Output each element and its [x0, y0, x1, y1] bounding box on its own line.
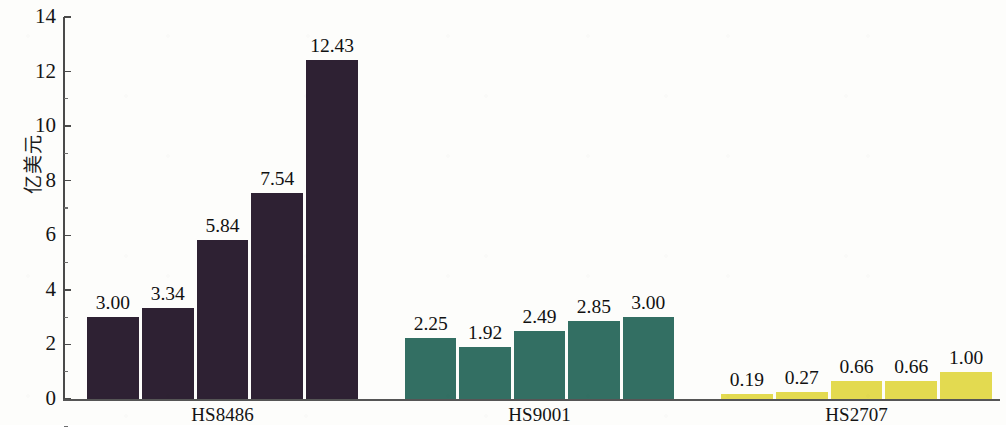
- bar: [197, 240, 249, 399]
- bar: [251, 193, 303, 399]
- bar-value-label: 1.00: [926, 348, 1006, 368]
- x-axis-group-label: HS2707: [721, 404, 992, 426]
- bar: [405, 338, 456, 399]
- bar: [142, 308, 194, 399]
- bar: [623, 317, 674, 399]
- bar: [885, 381, 937, 399]
- x-axis-group-label: HS9001: [405, 404, 674, 426]
- bar: [87, 317, 139, 399]
- bar-value-label: 12.43: [292, 36, 372, 56]
- bar: [831, 381, 883, 399]
- bar: [776, 392, 828, 399]
- bar: [514, 331, 565, 399]
- x-axis-group-label: HS8486: [87, 404, 358, 426]
- bar: [306, 60, 358, 399]
- bar-value-label: 3.00: [609, 293, 688, 313]
- bar: [459, 347, 510, 399]
- bar: [568, 321, 619, 399]
- bar: [940, 372, 992, 399]
- bar: [721, 394, 773, 399]
